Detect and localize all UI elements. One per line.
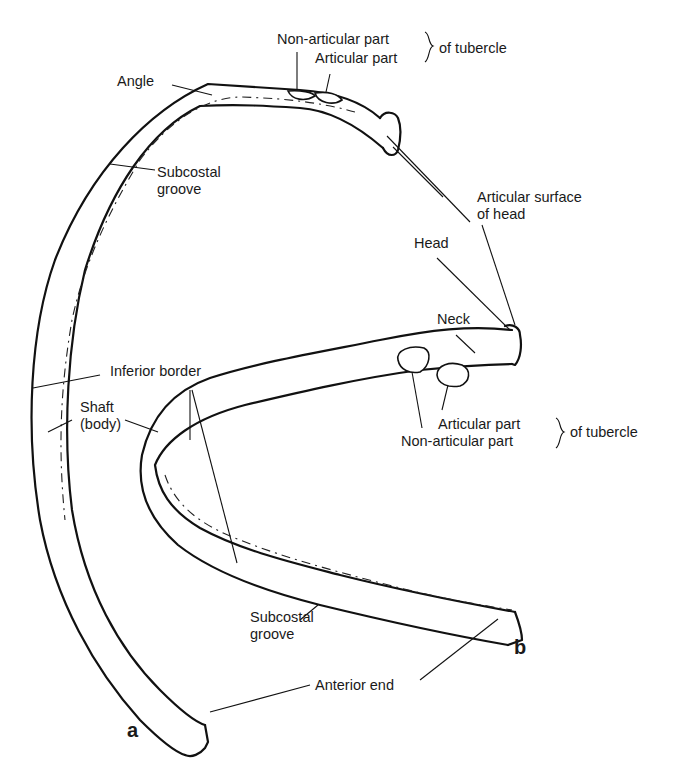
panel-label-b: b: [514, 636, 526, 658]
label-anterior-end: Anterior end: [315, 677, 394, 693]
label-subcostal-groove-a: Subcostal: [157, 164, 221, 180]
panel-label-a: a: [127, 719, 139, 741]
label-neck: Neck: [437, 311, 471, 327]
label-subcostal-groove-b-2: groove: [250, 626, 294, 642]
label-non-articular-part-top: Non-articular part: [277, 31, 389, 47]
labels: Angle Subcostal groove Non-articular par…: [80, 31, 638, 741]
label-head: Head: [414, 235, 449, 251]
label-of-tubercle-bottom: of tubercle: [570, 424, 638, 440]
label-articular-surface: Articular surface: [477, 189, 582, 205]
label-inferior-border: Inferior border: [110, 363, 201, 379]
label-articular-surface-2: of head: [477, 206, 525, 222]
label-shaft-body: (body): [80, 416, 121, 432]
label-angle: Angle: [117, 73, 154, 89]
label-subcostal-groove-a-2: groove: [157, 181, 201, 197]
label-of-tubercle-top: of tubercle: [439, 40, 507, 56]
rib-diagram: Angle Subcostal groove Non-articular par…: [0, 0, 678, 764]
label-shaft: Shaft: [80, 399, 114, 415]
label-articular-part-top: Articular part: [315, 50, 397, 66]
label-subcostal-groove-b: Subcostal: [250, 609, 314, 625]
label-non-articular-part-bottom: Non-articular part: [401, 433, 513, 449]
label-articular-part-bottom: Articular part: [438, 416, 520, 432]
